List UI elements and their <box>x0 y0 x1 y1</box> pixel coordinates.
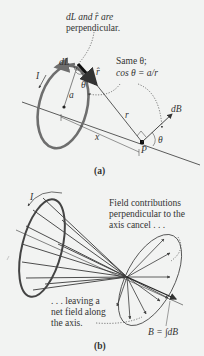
annotation-cancel-line3: axis cancel . . . <box>109 220 165 231</box>
diagram-canvas <box>0 0 204 356</box>
label-x: x <box>95 132 99 143</box>
label-theta-P: θ <box>158 135 163 146</box>
label-theta-loop: θ <box>81 80 86 91</box>
panel-a-label: (a) <box>94 166 105 177</box>
panel-b-label: (b) <box>94 341 106 352</box>
label-r: r <box>125 110 129 121</box>
annotation-perpendicular-line1: dL and r̂ are <box>66 12 113 23</box>
label-current-a: I <box>36 71 39 82</box>
annotation-cancel-line2: perpendicular to the <box>109 209 185 220</box>
field-ellipse <box>105 225 194 336</box>
annotation-cancel-line1: Field contributions <box>109 198 181 209</box>
annotation-net-line1: . . . leaving a <box>51 296 100 307</box>
equation-net-field: B = ∫dB <box>148 327 178 338</box>
label-radius-a: a <box>69 90 74 101</box>
label-dL: dL <box>59 56 70 67</box>
label-rhat: r̂ <box>96 67 100 78</box>
label-P: P <box>141 145 147 156</box>
annotation-same-theta-line2: cos θ = a/r <box>116 68 158 79</box>
annotation-net-line3: the axis. <box>51 318 83 329</box>
label-current-b: I <box>30 192 33 203</box>
annotation-same-theta-line1: Same θ; <box>116 56 147 67</box>
annotation-perpendicular-line2: perpendicular. <box>66 23 120 34</box>
panel-a <box>22 32 200 165</box>
dB-arrow <box>142 114 172 142</box>
label-dB: dB <box>171 104 182 115</box>
annotation-net-line2: net field along <box>51 307 106 318</box>
